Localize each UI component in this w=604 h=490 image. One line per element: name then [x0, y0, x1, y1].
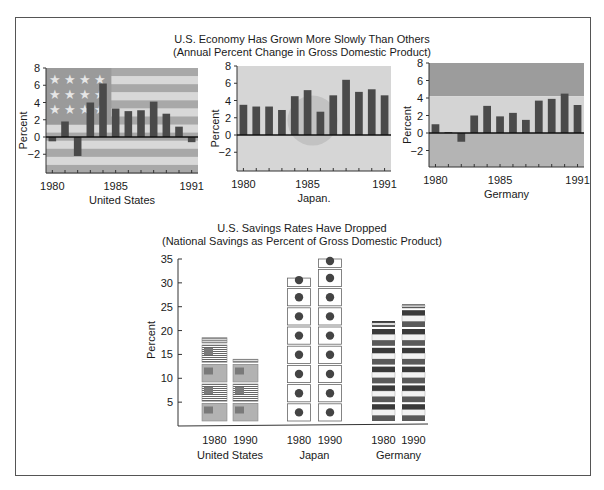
- flag-stripe: [233, 386, 258, 387]
- group-label: United States: [197, 449, 264, 461]
- y-tick-label: 35: [161, 253, 173, 265]
- gdp-chart-japan: 86420−2198019851991PercentJapan.: [209, 60, 397, 204]
- y-tick-label: 2: [417, 110, 423, 122]
- flag-band-top: [372, 329, 395, 335]
- flag-band-bottom: [402, 378, 425, 384]
- flag-stripe: [233, 400, 258, 401]
- star-icon: ★: [49, 102, 61, 117]
- pictogram-united-states-1990: [233, 359, 258, 421]
- sun-dot: [326, 331, 334, 339]
- bar-1990: [561, 94, 569, 133]
- bar-1983: [470, 116, 478, 134]
- bar-1989: [548, 99, 556, 133]
- flag-stripe: [202, 375, 227, 376]
- flag-band-bottom: [402, 415, 425, 421]
- sun-dot: [326, 351, 334, 359]
- sun-dot: [326, 293, 334, 301]
- flag-band-middle: [372, 353, 395, 359]
- flag-stripe: [46, 141, 198, 150]
- x-tick-label: 1980: [40, 180, 64, 192]
- flag-stripe: [233, 394, 258, 395]
- group-label: Japan: [300, 449, 330, 461]
- sun-dot: [326, 257, 334, 265]
- charts-canvas: ★★★★★★★★★★★★86420−2198019851991PercentUn…: [0, 0, 604, 490]
- pictogram-japan-1990: [319, 257, 342, 421]
- y-tick-label: 8: [225, 60, 231, 72]
- flag-band-top: [372, 321, 395, 323]
- sun-dot: [295, 389, 303, 397]
- flag-band-bottom: [372, 378, 395, 384]
- sun-dot: [326, 312, 334, 320]
- bar-1991: [381, 95, 389, 135]
- flag-stripe: [202, 347, 227, 348]
- sun-dot: [295, 312, 303, 320]
- bar-1983: [278, 110, 286, 135]
- flag-band-bottom: [372, 415, 395, 421]
- x-axis: [178, 424, 428, 426]
- y-tick-label: 4: [417, 92, 423, 104]
- bar-1990: [368, 89, 376, 135]
- x-tick-label: 1980: [231, 178, 255, 190]
- chart-label: Japan.: [297, 192, 330, 204]
- flag-stripe: [202, 420, 227, 421]
- group-label: Germany: [376, 449, 422, 461]
- flag-stripe: [202, 386, 227, 387]
- flag-band-middle: [372, 335, 395, 341]
- bar-1983: [87, 103, 95, 138]
- bar-1986: [509, 113, 517, 133]
- x-tick-label: 1991: [372, 178, 396, 190]
- bar-1984: [99, 84, 107, 137]
- y-tick-label: 6: [417, 75, 423, 87]
- flag-stripe: [233, 406, 258, 407]
- bar-1988: [150, 102, 158, 137]
- star-icon: ★: [79, 72, 91, 87]
- flag-stripe: [233, 398, 258, 399]
- x-tick-label: 1985: [295, 178, 319, 190]
- star-icon: ★: [49, 87, 61, 102]
- flag-stripe: [46, 157, 198, 166]
- pictogram-germany-1980: [372, 321, 395, 421]
- flag-band-middle: [372, 391, 395, 397]
- bar-1982: [265, 107, 273, 135]
- x-tick-label: 1985: [103, 180, 127, 192]
- flag-stripe: [202, 416, 227, 417]
- flag-band-top: [429, 63, 584, 96]
- gdp-chart-germany: 86420−2198019851991PercentGermany: [401, 57, 590, 200]
- flag-canton: [204, 348, 213, 355]
- x-tick-label: 1980: [423, 174, 447, 186]
- flag-stripe: [202, 342, 227, 343]
- flag-stripe: [202, 359, 227, 360]
- y-tick-label: 4: [34, 97, 40, 109]
- flag-canton: [204, 387, 213, 394]
- flag-band-middle: [372, 372, 395, 378]
- x-tick-label: 1980: [202, 434, 226, 446]
- flag-band-bottom: [429, 133, 584, 167]
- x-tick-label: 1990: [401, 434, 425, 446]
- flag-band-top: [402, 348, 425, 354]
- flag-stripe: [46, 149, 198, 158]
- chart-label: United States: [89, 194, 156, 206]
- flag-stripe: [202, 357, 227, 358]
- y-tick-label: 0: [34, 131, 40, 143]
- y-tick-label: 2: [225, 112, 231, 124]
- flag-stripe: [202, 381, 227, 382]
- y-tick-label: −2: [410, 145, 423, 157]
- flag-stripe: [202, 361, 227, 362]
- flag-band-top: [372, 385, 395, 391]
- y-axis-label: Percent: [145, 321, 157, 359]
- flag-stripe: [233, 381, 258, 382]
- y-tick-label: 5: [167, 396, 173, 408]
- y-tick-label: 8: [34, 62, 40, 74]
- flag-stripe: [202, 398, 227, 399]
- star-icon: ★: [79, 87, 91, 102]
- flag-canton: [204, 407, 213, 414]
- sun-dot: [295, 351, 303, 359]
- flag-stripe: [202, 394, 227, 395]
- flag-stripe: [233, 367, 258, 368]
- bar-1982: [74, 137, 82, 156]
- x-tick-label: 1991: [565, 174, 589, 186]
- y-tick-label: 0: [417, 127, 423, 139]
- flag-canton: [235, 407, 244, 414]
- sun-dot: [295, 331, 303, 339]
- x-tick-label: 1980: [371, 434, 395, 446]
